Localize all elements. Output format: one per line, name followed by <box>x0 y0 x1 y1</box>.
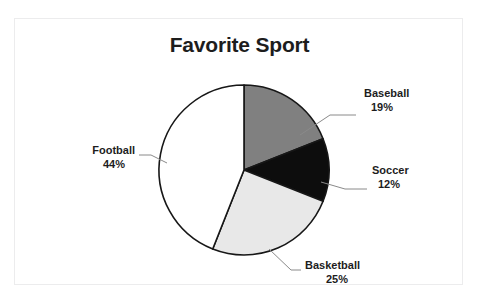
clipped-top-text <box>0 0 481 9</box>
chart-figure-frame: Favorite Sport Baseball 19% Soccer 12% B… <box>14 18 463 285</box>
pie-chart: Baseball 19% Soccer 12% Basketball 25% F… <box>15 19 464 286</box>
slice-label-football: Football <box>92 144 135 156</box>
slice-label-baseball: Baseball <box>364 87 409 99</box>
slice-value-soccer: 12% <box>378 178 400 190</box>
slice-value-basketball: 25% <box>326 273 348 285</box>
slice-label-basketball: Basketball <box>305 259 360 271</box>
slice-value-baseball: 19% <box>371 101 393 113</box>
slice-value-football: 44% <box>103 158 125 170</box>
leader-line-basketball <box>269 249 301 270</box>
slice-label-soccer: Soccer <box>372 164 409 176</box>
